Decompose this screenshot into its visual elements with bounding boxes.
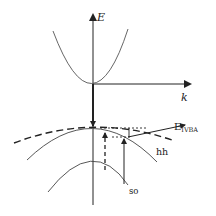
energy-axis-label: E	[96, 11, 105, 24]
conduction-band	[53, 29, 128, 84]
hh-label: hh	[156, 146, 168, 157]
ivba-label: EIVBA	[174, 121, 198, 134]
so-label: so	[129, 186, 138, 196]
band-diagram: E k EIVBA hh so	[0, 0, 216, 216]
k-axis-label: k	[181, 91, 188, 104]
split-off-band	[48, 161, 128, 192]
